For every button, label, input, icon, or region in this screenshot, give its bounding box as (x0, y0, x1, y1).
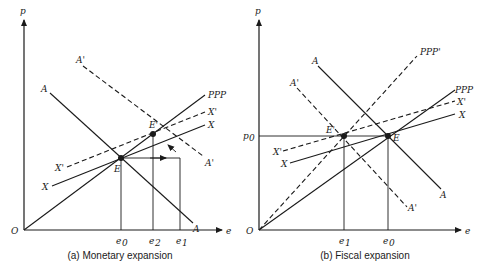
equilibrium-e-dot (385, 133, 391, 139)
tick-e1: e 1 (339, 236, 351, 248)
a-line (318, 66, 441, 189)
e-axis-label: e (226, 226, 231, 236)
x-prime-label-right: X' (456, 97, 466, 107)
ppp-prime-line (259, 56, 417, 230)
x-prime-label-left: X' (54, 163, 64, 173)
x-line (52, 125, 205, 186)
ppp-label: PPP (454, 85, 474, 95)
svg-text:1: 1 (345, 238, 351, 248)
e-point-label: E (392, 133, 400, 143)
a-label-top: A (40, 84, 48, 94)
caption-monetary-expansion: (a) Monetary expansion (67, 250, 172, 261)
e-prime-point-label: E' (325, 125, 335, 135)
tick-e0: e 0 (116, 236, 128, 248)
equilibrium-e-dot (118, 155, 124, 161)
ppp-line (259, 90, 455, 230)
svg-text:e: e (383, 236, 388, 246)
a-prime-line (83, 66, 203, 156)
caption-fiscal-expansion: (b) Fiscal expansion (320, 250, 409, 261)
x-prime-label-right: X' (207, 107, 217, 117)
a-prime-label-top: A' (289, 78, 299, 88)
p-axis-label: p (20, 6, 26, 16)
p0-label: p 0 (243, 131, 255, 143)
svg-text:0: 0 (122, 238, 128, 248)
x-prime-label-left: X' (272, 147, 282, 157)
p-axis-label: p (255, 6, 261, 16)
adjustment-arrow-a-prime (168, 145, 176, 152)
diagram-canvas: p e O PPP X' X' X X A A A' A' E (0, 0, 480, 269)
tick-e1: e 1 (176, 236, 188, 248)
a-label-top: A (311, 56, 319, 66)
x-label-right: X (458, 110, 466, 120)
ppp-prime-label: PPP' (419, 47, 441, 57)
equilibrium-e-prime-dot (341, 133, 347, 139)
svg-text:e: e (149, 236, 154, 246)
panel-monetary-expansion: p e O PPP X' X' X X A A A' A' E (11, 6, 231, 261)
x-label-right: X (207, 120, 215, 130)
svg-text:0: 0 (249, 133, 255, 143)
svg-text:e: e (116, 236, 121, 246)
equilibrium-e-prime-dot (150, 131, 156, 137)
e-point-label: E (113, 164, 121, 174)
a-label-bottom: A (439, 190, 447, 200)
e-axis-label: e (465, 226, 470, 236)
svg-text:1: 1 (182, 238, 188, 248)
a-prime-line (297, 88, 407, 207)
svg-text:0: 0 (389, 238, 395, 248)
x-prime-line (67, 112, 205, 167)
origin-label: O (246, 226, 254, 236)
x-label-left: X (280, 159, 288, 169)
tick-e0: e 0 (383, 236, 395, 248)
e-prime-point-label: E' (148, 120, 158, 130)
a-prime-label-bottom: A' (204, 158, 214, 168)
tick-e2: e 2 (149, 236, 161, 248)
a-label-bottom: A (192, 224, 200, 234)
x-label-left: X (41, 182, 49, 192)
a-prime-label-top: A' (75, 55, 85, 65)
x-line (290, 114, 455, 163)
ppp-label: PPP (207, 90, 227, 100)
origin-label: O (11, 226, 19, 236)
svg-text:e: e (176, 236, 181, 246)
svg-text:2: 2 (154, 238, 161, 248)
svg-text:e: e (339, 236, 344, 246)
panel-fiscal-expansion: p e O p 0 PPP' PPP X' X' X X A A A' A' (243, 6, 474, 261)
a-prime-label-bottom: A' (407, 203, 417, 213)
